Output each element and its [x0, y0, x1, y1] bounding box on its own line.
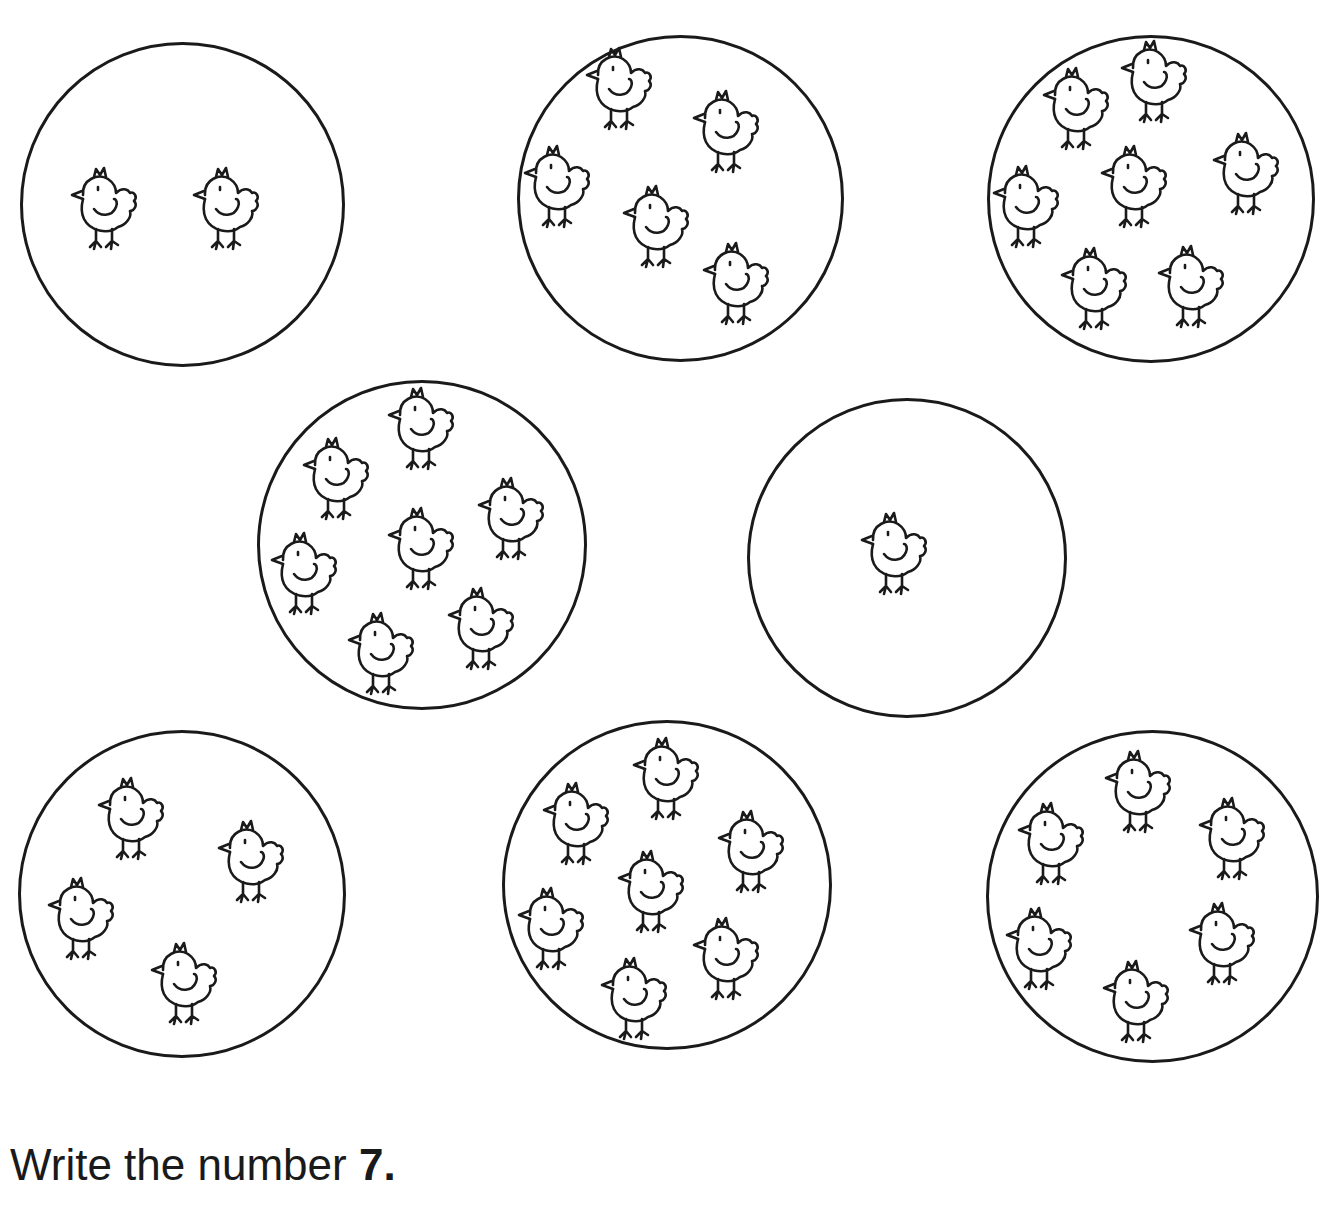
chick-icon [215, 818, 295, 908]
chick-icon [1196, 795, 1276, 885]
chick-icon [690, 88, 770, 178]
chick-icon [700, 240, 780, 330]
chick-icon [1003, 905, 1083, 995]
chick-icon [268, 530, 348, 620]
chick-icon [715, 808, 795, 898]
chick-icon [1098, 143, 1178, 233]
chick-icon [68, 165, 148, 255]
chick-icon [515, 885, 595, 975]
chick-icon [95, 775, 175, 865]
chick-icon [1210, 130, 1290, 220]
chick-icon [148, 940, 228, 1030]
chick-icon [385, 385, 465, 475]
chick-icon [615, 848, 695, 938]
chick-icon [858, 510, 938, 600]
chick-icon [1100, 958, 1180, 1048]
instruction-prefix: Write the number [10, 1140, 347, 1189]
instruction-text: Write the number 7. [10, 1140, 396, 1190]
chick-icon [45, 875, 125, 965]
chick-icon [620, 183, 700, 273]
target-number: 7. [359, 1140, 396, 1189]
chick-icon [345, 610, 425, 700]
chick-icon [1155, 243, 1235, 333]
chick-icon [598, 955, 678, 1045]
chick-icon [540, 780, 620, 870]
chick-icon [1186, 900, 1266, 990]
chick-icon [630, 735, 710, 825]
chick-icon [190, 165, 270, 255]
chick-icon [690, 915, 770, 1005]
chick-icon [1058, 245, 1138, 335]
chick-icon [1015, 800, 1095, 890]
chick-icon [1040, 65, 1120, 155]
chick-icon [1118, 38, 1198, 128]
chick-icon [475, 475, 555, 565]
chick-icon [583, 45, 663, 135]
chick-icon [445, 585, 525, 675]
chick-icon [385, 505, 465, 595]
chick-icon [990, 163, 1070, 253]
chick-icon [300, 435, 380, 525]
chick-icon [521, 143, 601, 233]
chick-icon [1102, 748, 1182, 838]
